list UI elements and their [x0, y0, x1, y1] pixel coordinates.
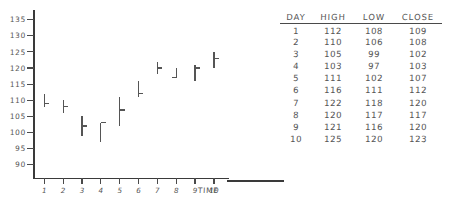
cell-close: 102 [394, 48, 442, 60]
x-tick-label: 7 [149, 186, 165, 195]
x-tick-mark [119, 178, 120, 184]
x-tick-mark [100, 178, 101, 184]
cell-low: 99 [354, 48, 394, 60]
y-tick-label: 110 [0, 96, 26, 105]
x-tick-label: 2 [55, 186, 71, 195]
cell-high: 120 [312, 109, 354, 121]
cell-day: 5 [280, 72, 312, 84]
y-tick-mark [27, 35, 34, 36]
cell-high: 122 [312, 97, 354, 109]
table-body: 1112108109211010610831059910241039710351… [280, 24, 442, 145]
table-row: 6116111112 [280, 84, 442, 96]
y-tick-label: 95 [0, 144, 26, 153]
table-row: 9121116120 [280, 121, 442, 133]
cell-day: 7 [280, 97, 312, 109]
cell-low: 116 [354, 121, 394, 133]
ohlc-data-table: DAY HIGH LOW CLOSE 111210810921101061083… [280, 12, 448, 145]
cell-low: 117 [354, 109, 394, 121]
x-tick-label: 3 [74, 186, 90, 195]
cell-high: 103 [312, 60, 354, 72]
horizontal-rule [227, 180, 284, 182]
x-tick-label: 1 [36, 186, 52, 195]
x-tick-mark [157, 178, 158, 184]
y-tick-label: 120 [0, 64, 26, 73]
cell-low: 106 [354, 36, 394, 48]
cell-day: 9 [280, 121, 312, 133]
x-tick-mark [63, 178, 64, 184]
y-tick-mark [27, 19, 34, 20]
cell-low: 120 [354, 133, 394, 145]
ohlc-close-tick [214, 58, 219, 59]
ohlc-close-tick [63, 106, 68, 107]
y-tick-mark [27, 67, 34, 68]
y-tick-mark [27, 148, 34, 149]
cell-low: 97 [354, 60, 394, 72]
cell-close: 123 [394, 133, 442, 145]
x-tick-mark [176, 178, 177, 184]
x-tick-mark [44, 178, 45, 184]
table-row: 10125120123 [280, 133, 442, 145]
cell-close: 107 [394, 72, 442, 84]
cell-high: 116 [312, 84, 354, 96]
table-row: 8120117117 [280, 109, 442, 121]
cell-low: 102 [354, 72, 394, 84]
ohlc-bar-range [100, 123, 101, 142]
y-tick-mark [27, 164, 34, 165]
x-tick-label: 5 [112, 186, 128, 195]
x-tick-label: 4 [93, 186, 109, 195]
y-tick-label: 115 [0, 80, 26, 89]
cell-low: 118 [354, 97, 394, 109]
cell-day: 2 [280, 36, 312, 48]
y-tick-mark [27, 51, 34, 52]
ohlc-close-tick [195, 67, 200, 68]
y-tick-label: 105 [0, 112, 26, 121]
y-tick-mark [27, 100, 34, 101]
y-tick-label: 100 [0, 128, 26, 137]
y-tick-mark [27, 116, 34, 117]
cell-day: 8 [280, 109, 312, 121]
cell-close: 109 [394, 24, 442, 37]
cell-high: 110 [312, 36, 354, 48]
ohlc-close-tick [82, 125, 87, 126]
cell-low: 111 [354, 84, 394, 96]
cell-day: 6 [280, 84, 312, 96]
ohlc-chart: 1351301251201151101051009590 12345678910… [0, 0, 240, 204]
cell-close: 108 [394, 36, 442, 48]
ohlc-bar-range [119, 97, 120, 126]
table-row: 2110106108 [280, 36, 442, 48]
column-header-day: DAY [280, 12, 312, 24]
ohlc-close-tick [120, 109, 125, 110]
cell-day: 3 [280, 48, 312, 60]
table-header-row: DAY HIGH LOW CLOSE [280, 12, 442, 24]
cell-high: 105 [312, 48, 354, 60]
cell-close: 120 [394, 97, 442, 109]
cell-close: 103 [394, 60, 442, 72]
ohlc-close-tick [158, 67, 163, 68]
ohlc-bar-range [138, 81, 139, 97]
page-root: 1351301251201151101051009590 12345678910… [0, 0, 454, 204]
ohlc-close-tick [172, 77, 177, 78]
column-header-high: HIGH [312, 12, 354, 24]
x-tick-mark [194, 178, 195, 184]
ohlc-close-tick [101, 122, 106, 123]
cell-close: 120 [394, 121, 442, 133]
table-row: 7122118120 [280, 97, 442, 109]
cell-high: 111 [312, 72, 354, 84]
y-tick-label: 135 [0, 15, 26, 24]
table-row: 410397103 [280, 60, 442, 72]
y-tick-mark [27, 84, 34, 85]
ohlc-bar-range [213, 52, 214, 68]
y-tick-label: 90 [0, 160, 26, 169]
table-row: 5111102107 [280, 72, 442, 84]
ohlc-close-tick [139, 93, 144, 94]
cell-high: 121 [312, 121, 354, 133]
table-row: 1112108109 [280, 24, 442, 37]
cell-day: 4 [280, 60, 312, 72]
x-tick-mark [81, 178, 82, 184]
x-tick-mark [213, 178, 214, 184]
ohlc-close-tick [45, 103, 50, 104]
table-row: 310599102 [280, 48, 442, 60]
y-tick-label: 130 [0, 31, 26, 40]
cell-day: 10 [280, 133, 312, 145]
x-tick-label: 8 [168, 186, 184, 195]
